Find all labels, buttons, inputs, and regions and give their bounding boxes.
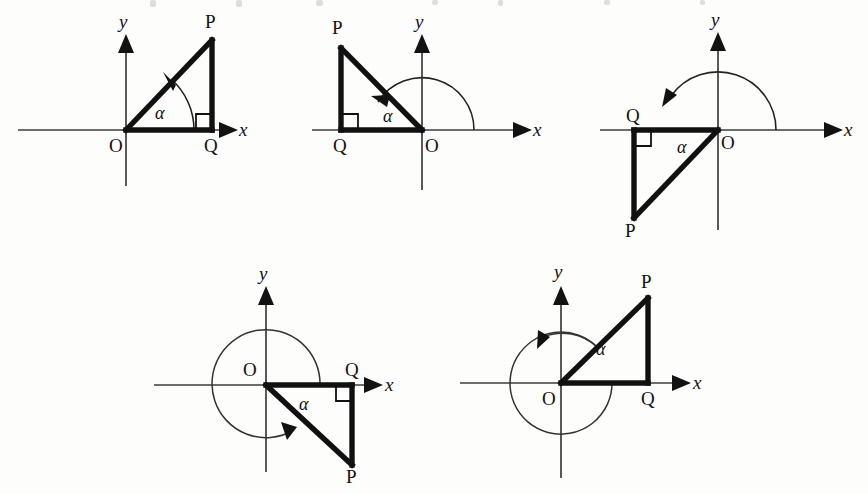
point-label-O: O bbox=[425, 136, 439, 155]
point-label-O: O bbox=[243, 360, 257, 379]
angle-arc-arrowhead bbox=[537, 330, 550, 349]
point-label-P: P bbox=[625, 221, 636, 240]
diagram-3-quadrant-iii-reflex: x y O Q P α bbox=[580, 0, 868, 250]
y-axis-arrowhead bbox=[553, 286, 569, 305]
y-axis-arrowhead bbox=[710, 32, 726, 51]
x-axis-label: x bbox=[385, 375, 393, 394]
x-axis-arrowhead bbox=[219, 122, 238, 138]
angle-arc-arrowhead bbox=[281, 422, 297, 440]
x-axis-label: x bbox=[239, 120, 247, 139]
side-OP-hypotenuse bbox=[634, 130, 718, 218]
point-label-Q: Q bbox=[204, 136, 218, 155]
point-label-Q: Q bbox=[641, 389, 655, 408]
side-OP-hypotenuse bbox=[341, 48, 422, 130]
diagram-2-quadrant-ii-obtuse: x y O Q P α bbox=[290, 0, 570, 200]
angle-label-alpha: α bbox=[596, 340, 605, 358]
point-label-Q: Q bbox=[333, 136, 347, 155]
x-axis-label: x bbox=[844, 120, 852, 139]
y-axis-label: y bbox=[711, 10, 719, 29]
diagram-4-quadrant-iv-reflex: x y O Q P α bbox=[140, 250, 440, 493]
point-label-O: O bbox=[542, 389, 556, 408]
point-label-Q: Q bbox=[345, 360, 359, 379]
point-label-P: P bbox=[332, 18, 343, 37]
point-label-Q: Q bbox=[626, 106, 640, 125]
triangle-OQP bbox=[341, 48, 422, 130]
x-axis-arrowhead bbox=[672, 375, 691, 391]
diagram-1-quadrant-i-acute: x y O Q P α bbox=[0, 0, 270, 200]
point-label-O: O bbox=[721, 133, 735, 152]
triangle-OQP bbox=[634, 130, 718, 218]
angle-arc bbox=[671, 72, 776, 130]
x-axis-label: x bbox=[693, 373, 701, 392]
point-label-P: P bbox=[641, 272, 652, 291]
x-axis-arrowhead bbox=[364, 377, 383, 393]
y-axis-label: y bbox=[415, 12, 423, 31]
x-axis-arrowhead bbox=[824, 122, 843, 138]
point-label-P: P bbox=[346, 467, 357, 486]
y-axis-label: y bbox=[119, 12, 127, 31]
x-axis-label: x bbox=[533, 120, 541, 139]
y-axis-arrowhead bbox=[118, 34, 134, 53]
side-OP-hypotenuse bbox=[266, 385, 352, 465]
triangle-OQP bbox=[266, 385, 352, 465]
angle-label-alpha: α bbox=[383, 107, 392, 125]
side-OP-hypotenuse bbox=[126, 40, 212, 130]
diagram-5-quadrant-i-coterminal: x y O Q P α bbox=[450, 250, 750, 493]
angle-label-alpha: α bbox=[299, 395, 308, 413]
angle-label-alpha: α bbox=[155, 104, 164, 122]
y-axis-arrowhead bbox=[414, 34, 430, 53]
point-label-O: O bbox=[109, 136, 123, 155]
y-axis-label: y bbox=[554, 262, 562, 281]
figure-sheet: x y O Q P α x y O bbox=[0, 0, 868, 493]
y-axis-label: y bbox=[259, 264, 267, 283]
triangle-OQP bbox=[126, 40, 212, 130]
point-label-P: P bbox=[205, 12, 216, 31]
x-axis-arrowhead bbox=[513, 122, 532, 138]
angle-label-alpha: α bbox=[677, 138, 686, 156]
y-axis-arrowhead bbox=[258, 286, 274, 305]
